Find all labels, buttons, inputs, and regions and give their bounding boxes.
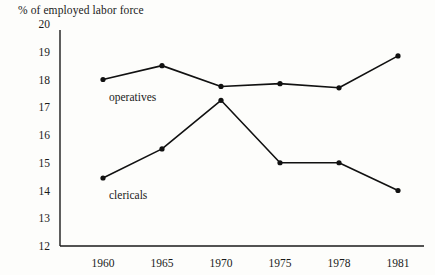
- data-point-clericals: [395, 188, 400, 193]
- x-tick-label: 1970: [210, 257, 233, 269]
- data-point-operatives: [336, 85, 341, 90]
- data-point-clericals: [336, 160, 341, 165]
- y-tick-label: 16: [39, 129, 51, 141]
- data-point-operatives: [159, 63, 164, 68]
- data-point-operatives: [277, 81, 282, 86]
- y-tick-label: 15: [39, 157, 51, 169]
- x-axis-tick-labels: 196019651970197519781981: [92, 257, 410, 269]
- series-annotation-operatives: operatives: [109, 91, 157, 104]
- y-tick-label: 14: [39, 185, 51, 197]
- data-point-clericals: [277, 160, 282, 165]
- series-annotation-clericals: clericals: [109, 189, 148, 201]
- x-tick-label: 1981: [387, 257, 410, 269]
- series-annotations: operativesclericals: [109, 91, 157, 202]
- series-layer: [100, 53, 400, 193]
- y-axis-tick-labels: 121314151617181920: [39, 18, 51, 252]
- line-chart: % of employed labor force 12131415161718…: [0, 0, 435, 275]
- data-point-clericals: [218, 98, 223, 103]
- data-point-clericals: [159, 146, 164, 151]
- data-point-operatives: [218, 84, 223, 89]
- x-tick-label: 1965: [151, 257, 174, 269]
- series-line-operatives: [103, 56, 398, 88]
- x-tick-label: 1960: [92, 257, 115, 269]
- series-line-clericals: [103, 100, 398, 190]
- y-tick-label: 13: [39, 212, 51, 224]
- data-point-clericals: [100, 175, 105, 180]
- plot-area: 121314151617181920 196019651970197519781…: [0, 0, 435, 275]
- y-tick-label: 17: [39, 101, 51, 113]
- y-tick-label: 19: [39, 46, 51, 58]
- data-point-operatives: [395, 53, 400, 58]
- x-tick-label: 1978: [328, 257, 351, 269]
- y-tick-label: 18: [39, 74, 51, 86]
- y-tick-label: 20: [39, 18, 51, 30]
- x-tick-label: 1975: [269, 257, 292, 269]
- y-tick-label: 12: [39, 240, 51, 252]
- data-point-operatives: [100, 77, 105, 82]
